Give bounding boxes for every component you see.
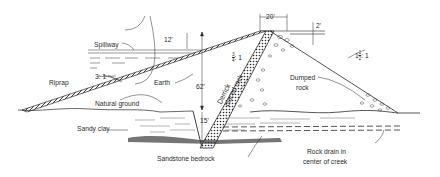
label-dumped: Dumped — [290, 74, 315, 82]
dim-height: 62' — [196, 83, 205, 91]
label-earth: Earth — [154, 79, 170, 87]
label-rock: rock — [296, 84, 309, 92]
label-rock-drain-1: Rock drain in — [307, 148, 346, 156]
dim-crest-width: 20' — [266, 13, 275, 21]
label-core-slope: 3 4 : 1 — [232, 52, 242, 63]
reservoir-water — [88, 50, 205, 68]
label-downstream-slope: 1 1 2 : 1 — [355, 50, 369, 61]
rock-drain — [223, 126, 402, 131]
label-riprap: Riprap — [49, 79, 69, 87]
core-slope-suffix: : 1 — [234, 53, 241, 62]
dim-cutoff-depth: 15' — [200, 117, 209, 125]
downstream-slope-suffix: : 1 — [361, 51, 368, 60]
dim-freeboard: 2' — [316, 22, 321, 30]
label-sandy-clay: Sandy clay — [77, 125, 110, 133]
dim-spillway-depth: 12' — [164, 36, 173, 44]
sandy-clay-layer — [135, 118, 355, 132]
label-sandstone-bedrock: Sandstone bedrock — [157, 155, 215, 163]
dam-cross-section-diagram: 12' 20' 2' 62' 15' Spillway Riprap 3: 1 … — [0, 0, 440, 177]
label-natural-ground: Natural ground — [95, 100, 139, 108]
label-rock-drain-2: center of creek — [303, 158, 347, 166]
label-spillway: Spillway — [94, 41, 119, 49]
label-upstream-slope: 3: 1 — [95, 73, 106, 81]
